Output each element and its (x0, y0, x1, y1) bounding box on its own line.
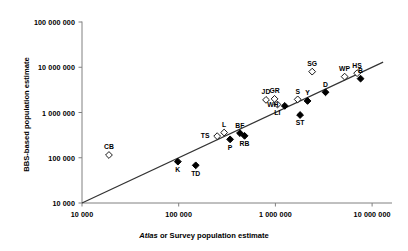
plot-canvas (0, 0, 408, 251)
point-label-d: D (323, 81, 328, 88)
y-tick-label: 1 000 000 (0, 108, 75, 117)
x-tick-label: 10 000 000 (354, 210, 391, 219)
x-tick-label: 100 000 (165, 210, 192, 219)
point-label-sg: SG (307, 60, 317, 67)
x-axis-title-italic: Atlas (139, 231, 158, 240)
point-label-wp: WP (339, 65, 350, 72)
point-label-b: B (358, 67, 363, 74)
point-label-gr: GR (269, 87, 279, 94)
point-label-k: K (175, 166, 180, 173)
y-axis-title: BBS-based population estimate (22, 35, 31, 195)
x-tick-label: 10 000 (71, 210, 94, 219)
point-label-wh: WH (267, 101, 278, 108)
reference-line (82, 62, 383, 203)
point-label-st: ST (296, 119, 305, 126)
point-label-s: S (295, 88, 300, 95)
point-label-cb: CB (104, 143, 114, 150)
scatter-plot-figure: 10 000100 0001 000 00010 000 000100 000 … (0, 0, 408, 251)
y-tick-label: 10 000 (0, 199, 75, 208)
y-tick-label: 100 000 000 (0, 18, 75, 27)
axes (79, 22, 393, 207)
point-label-p: P (228, 144, 233, 151)
y-tick-label: 100 000 (0, 153, 75, 162)
y-tick-label: 10 000 000 (0, 63, 75, 72)
point-label-rb: RB (240, 140, 250, 147)
point-label-li: LI (274, 109, 280, 116)
point-label-l: L (222, 121, 226, 128)
x-axis-title: Atlas or Survey population estimate (0, 231, 408, 240)
point-label-bf: BF (235, 122, 244, 129)
point-label-td: TD (191, 170, 200, 177)
x-tick-label: 1 000 000 (259, 210, 292, 219)
point-label-ts: TS (201, 132, 210, 139)
x-axis-title-rest: or Survey population estimate (158, 231, 269, 240)
point-label-y: Y (305, 89, 310, 96)
